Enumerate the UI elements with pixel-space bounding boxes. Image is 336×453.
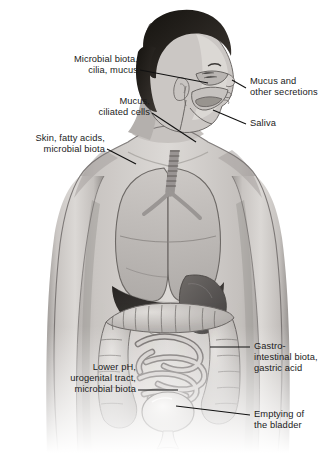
label-skin-defenses-line-1: Skin, fatty acids, xyxy=(36,133,106,144)
label-gastrointestinal-defenses: Gastro- intestinal biota, gastric acid xyxy=(254,341,318,375)
label-nasal-defenses: Microbial biota, cilia, mucus xyxy=(74,54,138,76)
label-gastrointestinal-defenses-line-2: intestinal biota, xyxy=(254,352,318,363)
label-mucus-secretions-line-1: Mucus and xyxy=(250,76,318,87)
label-bladder-emptying-line-2: the bladder xyxy=(254,420,304,431)
label-bladder-emptying: Emptying of the bladder xyxy=(254,409,304,431)
anatomy-illustration xyxy=(0,0,336,453)
label-skin-defenses-line-2: microbial biota xyxy=(36,144,106,155)
label-mucus-secretions-line-2: other secretions xyxy=(250,87,318,98)
label-bladder-emptying-line-1: Emptying of xyxy=(254,409,304,420)
label-urogenital-defenses: Lower pH, urogenital tract, microbial bi… xyxy=(70,362,136,396)
label-gastrointestinal-defenses-line-3: gastric acid xyxy=(254,363,318,374)
illustration-canvas: Microbial biota, cilia, mucus Mucus, cil… xyxy=(0,0,336,453)
label-skin-defenses: Skin, fatty acids, microbial biota xyxy=(36,133,106,155)
label-trachea-defenses-line-2: ciliated cells xyxy=(98,107,150,118)
label-nasal-defenses-line-2: cilia, mucus xyxy=(74,65,138,76)
label-trachea-defenses: Mucus, ciliated cells xyxy=(98,96,150,118)
label-gastrointestinal-defenses-line-1: Gastro- xyxy=(254,341,318,352)
label-urogenital-defenses-line-3: microbial biota xyxy=(70,384,136,395)
label-saliva-line-1: Saliva xyxy=(250,118,276,129)
label-saliva: Saliva xyxy=(250,118,276,129)
label-mucus-secretions: Mucus and other secretions xyxy=(250,76,318,98)
label-urogenital-defenses-line-1: Lower pH, xyxy=(70,362,136,373)
label-trachea-defenses-line-1: Mucus, xyxy=(98,96,150,107)
label-urogenital-defenses-line-2: urogenital tract, xyxy=(70,373,136,384)
label-nasal-defenses-line-1: Microbial biota, xyxy=(74,54,138,65)
